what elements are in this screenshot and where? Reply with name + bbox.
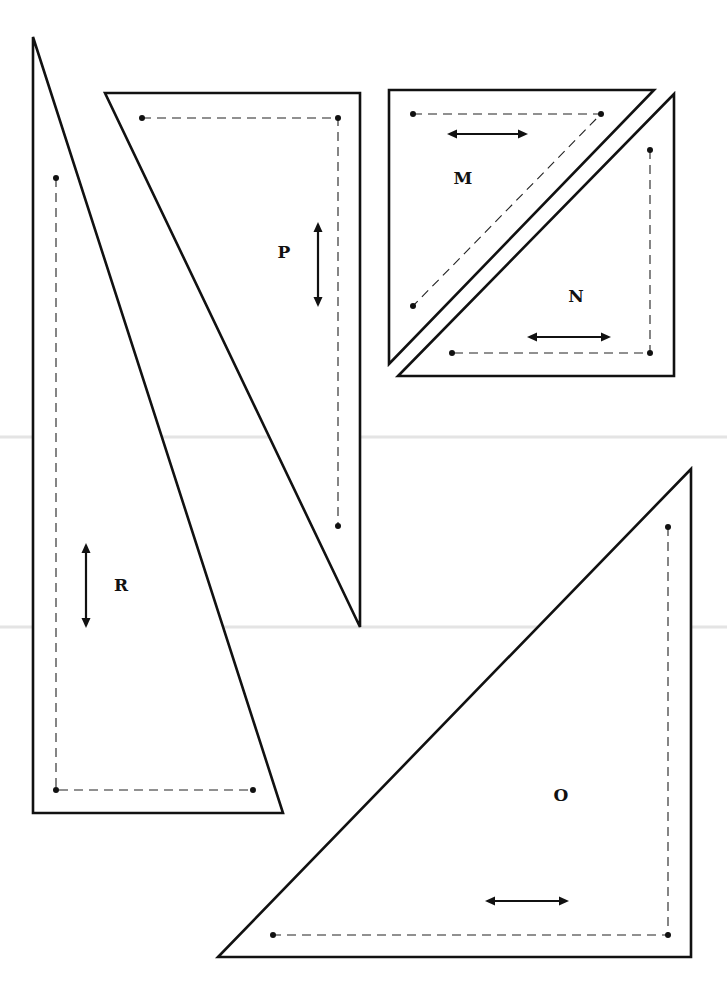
piece-n-label: N xyxy=(568,286,584,306)
seam-corner-dot-icon xyxy=(647,350,653,356)
seam-corner-dot-icon xyxy=(270,932,276,938)
seam-corner-dot-icon xyxy=(598,111,604,117)
piece-o-label: O xyxy=(554,785,569,805)
seam-corner-dot-icon xyxy=(250,787,256,793)
seam-corner-dot-icon xyxy=(139,115,145,121)
piece-m-label: M xyxy=(454,168,473,188)
piece-o-cut-line xyxy=(218,469,691,957)
seam-corner-dot-icon xyxy=(647,147,653,153)
piece-r-label: R xyxy=(114,575,129,595)
seam-corner-dot-icon xyxy=(665,524,671,530)
seam-corner-dot-icon xyxy=(53,787,59,793)
seam-corner-dot-icon xyxy=(335,523,341,529)
piece-o: O xyxy=(218,469,691,957)
seam-corner-dot-icon xyxy=(665,932,671,938)
pattern-sheet: R P M N O xyxy=(0,0,727,987)
seam-corner-dot-icon xyxy=(53,175,59,181)
seam-corner-dot-icon xyxy=(449,350,455,356)
seam-corner-dot-icon xyxy=(410,303,416,309)
seam-corner-dot-icon xyxy=(410,111,416,117)
seam-corner-dot-icon xyxy=(335,115,341,121)
piece-p-label: P xyxy=(278,242,291,262)
